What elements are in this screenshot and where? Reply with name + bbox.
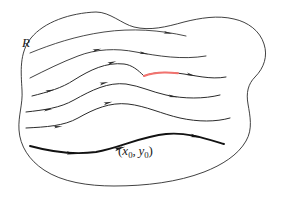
initial-point-label: (x0, y0): [118, 143, 153, 160]
region-label-R: R: [21, 35, 30, 50]
region-flow-diagram: R (x0, y0): [0, 0, 281, 198]
figure-canvas: R (x0, y0): [0, 0, 281, 198]
